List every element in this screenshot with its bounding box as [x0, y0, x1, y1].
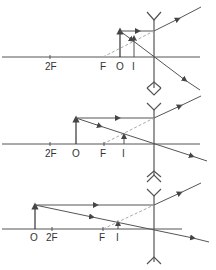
- label-2f: 2F: [45, 61, 57, 72]
- label-image: I: [132, 61, 135, 72]
- refracted-ray: [154, 106, 180, 118]
- panel-3: O 2F F I: [2, 175, 209, 264]
- central-ray: [76, 118, 100, 126]
- central-ray: [120, 31, 132, 40]
- label-f: F: [100, 148, 106, 159]
- panel-2: 2F O F I: [2, 88, 207, 177]
- diverging-lens: [147, 12, 161, 88]
- central-ray: [35, 205, 92, 217]
- refracted-ray: [154, 193, 180, 205]
- label-f: F: [99, 232, 105, 243]
- label-f: F: [100, 61, 106, 72]
- diverging-lens: [147, 175, 161, 264]
- virtual-ray-extension: [103, 118, 154, 144]
- label-2f: 2F: [45, 148, 57, 159]
- label-image: I: [122, 148, 125, 159]
- virtual-ray-extension: [103, 31, 154, 57]
- refracted-ray: [154, 19, 178, 31]
- label-object: O: [72, 148, 80, 159]
- label-2f: 2F: [46, 232, 58, 243]
- diverging-lens: [147, 88, 161, 177]
- virtual-ray-extension: [103, 205, 154, 229]
- label-object: O: [30, 232, 38, 243]
- label-object: O: [116, 61, 124, 72]
- panel-1: 2F F O I: [2, 7, 201, 90]
- label-image: I: [116, 232, 119, 243]
- ray-diagram-figure: 2F F O I 2F O F I: [0, 0, 216, 270]
